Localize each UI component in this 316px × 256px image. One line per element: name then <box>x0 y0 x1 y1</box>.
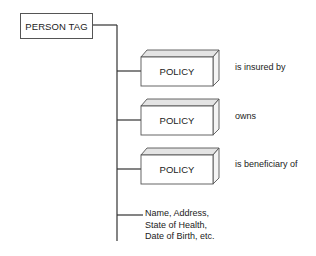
person-tag-label: PERSON TAG <box>25 21 87 32</box>
person-attributes: Name, Address, State of Health, Date of … <box>145 208 215 243</box>
attribute-line-1: Name, Address, <box>145 208 215 220</box>
person-tag-box: PERSON TAG <box>20 13 93 39</box>
relationship-label-1: is insured by <box>235 62 286 72</box>
relationship-label-3: is beneficiary of <box>235 159 298 169</box>
diagram-canvas: PERSON TAG POLICY POLICY POLICY is insur… <box>0 0 316 256</box>
relationship-label-2: owns <box>235 111 256 121</box>
policy-label-1: POLICY <box>141 66 213 77</box>
policy-label-2: POLICY <box>141 115 213 126</box>
attribute-line-2: State of Health, <box>145 220 215 232</box>
attribute-line-3: Date of Birth, etc. <box>145 231 215 243</box>
policy-label-3: POLICY <box>141 164 213 175</box>
